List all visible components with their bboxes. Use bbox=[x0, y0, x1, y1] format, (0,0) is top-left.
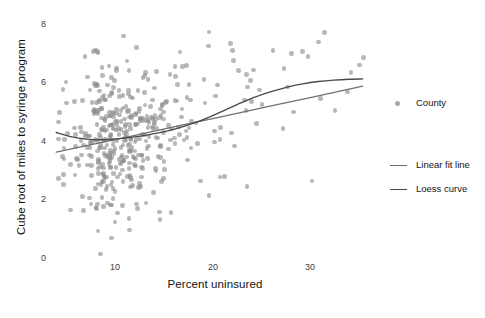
legend-label-county: County bbox=[416, 96, 446, 110]
plot-area bbox=[50, 10, 375, 262]
loess-curve bbox=[56, 79, 362, 140]
x-tick-label-10: 10 bbox=[100, 262, 130, 272]
x-tick-label-30: 30 bbox=[295, 262, 325, 272]
legend-label-linear: Linear fit line bbox=[416, 158, 470, 172]
y-tick-label-4: 4 bbox=[20, 136, 46, 146]
x-tick-label-20: 20 bbox=[198, 262, 228, 272]
linear-line-icon bbox=[390, 165, 407, 166]
y-tick-label-6: 6 bbox=[20, 77, 46, 87]
linear-fit-line bbox=[56, 86, 362, 152]
y-tick-label-2: 2 bbox=[20, 194, 46, 204]
county-point-icon bbox=[395, 101, 400, 106]
fit-lines-layer bbox=[50, 10, 375, 262]
legend-label-loess: Loess curve bbox=[416, 182, 467, 196]
y-tick-label-8: 8 bbox=[20, 19, 46, 29]
x-axis-title: Percent uninsured bbox=[60, 278, 370, 290]
scatter-plot-figure: Cube root of miles to syringe program Pe… bbox=[0, 0, 485, 318]
y-tick-label-0: 0 bbox=[20, 253, 46, 263]
loess-line-icon bbox=[390, 189, 407, 190]
